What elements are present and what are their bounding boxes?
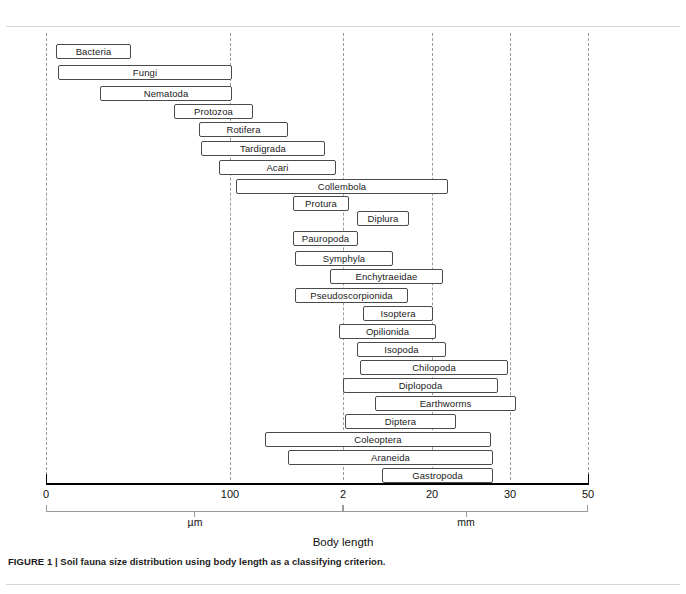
bar-collembola: Collembola <box>236 179 448 194</box>
x-tick-0 <box>46 474 47 485</box>
x-axis-line <box>46 483 588 485</box>
gridline-20 <box>432 33 433 480</box>
bar-diplopoda: Diplopoda <box>343 378 498 393</box>
gridline-0 <box>46 33 47 480</box>
bar-protozoa: Protozoa <box>174 104 253 119</box>
bar-tardigrada: Tardigrada <box>201 141 325 156</box>
bar-rotifera: Rotifera <box>199 122 288 137</box>
millimeter-unit-label: mm <box>457 516 475 528</box>
x-tick-label-2: 2 <box>340 488 346 500</box>
x-tick-label-50: 50 <box>582 488 594 500</box>
bar-label: Diptera <box>346 415 455 428</box>
bar-symphyla: Symphyla <box>295 251 393 266</box>
bar-isopoda: Isopoda <box>357 342 446 357</box>
x-tick-50 <box>588 474 589 485</box>
gridline-30 <box>510 33 511 480</box>
bar-label: Diplura <box>358 212 408 225</box>
bar-nematoda: Nematoda <box>100 86 232 101</box>
bar-label: Coleoptera <box>266 433 490 446</box>
bar-protura: Protura <box>293 196 349 211</box>
bar-opilionida: Opilionida <box>339 324 436 339</box>
bar-araneida: Araneida <box>288 450 493 465</box>
x-tick-label-100: 100 <box>221 488 239 500</box>
bar-acari: Acari <box>219 160 336 175</box>
bar-gastropoda: Gastropoda <box>382 468 493 483</box>
bar-fungi: Fungi <box>58 65 232 80</box>
bar-earthworms: Earthworms <box>375 396 516 411</box>
bar-chilopoda: Chilopoda <box>360 360 508 375</box>
bar-label: Diplopoda <box>344 379 497 392</box>
bar-label: Isopoda <box>358 343 445 356</box>
bar-label: Bacteria <box>57 45 130 58</box>
bar-enchytraeidae: Enchytraeidae <box>330 269 443 284</box>
bar-label: Araneida <box>289 451 492 464</box>
bar-label: Earthworms <box>376 397 515 410</box>
bar-label: Opilionida <box>340 325 435 338</box>
bar-diptera: Diptera <box>345 414 456 429</box>
bar-label: Protura <box>294 197 348 210</box>
bar-pseudoscorpionida: Pseudoscorpionida <box>295 288 408 303</box>
bar-label: Rotifera <box>200 123 287 136</box>
bar-coleoptera: Coleoptera <box>265 432 491 447</box>
figure-page: BacteriaFungiNematodaProtozoaRotiferaTar… <box>0 0 686 594</box>
bar-diplura: Diplura <box>357 211 409 226</box>
bar-label: Acari <box>220 161 335 174</box>
x-tick-2 <box>343 483 344 485</box>
bar-label: Isoptera <box>364 307 432 320</box>
bar-label: Chilopoda <box>361 361 507 374</box>
x-tick-label-30: 30 <box>504 488 516 500</box>
x-tick-30 <box>510 483 511 485</box>
bar-label: Pauropoda <box>294 232 357 245</box>
bar-label: Collembola <box>237 180 447 193</box>
x-tick-20 <box>432 483 433 485</box>
gridline-50 <box>588 33 589 480</box>
bottom-divider <box>6 584 680 585</box>
bar-isoptera: Isoptera <box>363 306 433 321</box>
bar-label: Fungi <box>59 66 231 79</box>
bar-label: Symphyla <box>296 252 392 265</box>
bar-label: Protozoa <box>175 105 252 118</box>
x-tick-label-20: 20 <box>426 488 438 500</box>
micrometer-bracket <box>46 505 343 512</box>
bar-label: Gastropoda <box>383 469 492 482</box>
bar-bacteria: Bacteria <box>56 44 131 59</box>
bar-label: Enchytraeidae <box>331 270 442 283</box>
micrometer-unit-label: µm <box>188 516 203 528</box>
bar-label: Nematoda <box>101 87 231 100</box>
x-tick-label-0: 0 <box>43 488 49 500</box>
bar-label: Tardigrada <box>202 142 324 155</box>
figure-caption: FIGURE 1 | Soil fauna size distribution … <box>8 556 385 567</box>
x-axis-title: Body length <box>313 536 374 548</box>
chart-plot-area: BacteriaFungiNematodaProtozoaRotiferaTar… <box>0 0 686 520</box>
millimeter-bracket <box>343 505 588 512</box>
bar-label: Pseudoscorpionida <box>296 289 407 302</box>
bar-pauropoda: Pauropoda <box>293 231 358 246</box>
x-tick-100 <box>230 483 231 485</box>
